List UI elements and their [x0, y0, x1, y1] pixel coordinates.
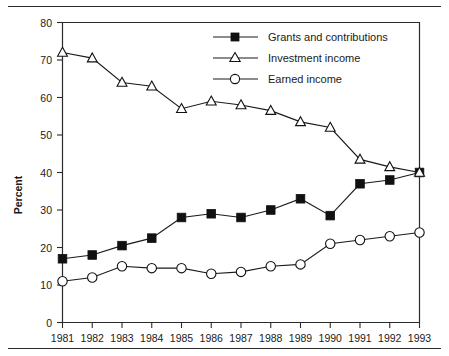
x-tick-label: 1993 — [408, 332, 432, 344]
open-circle-marker-icon — [326, 239, 335, 248]
filled-square-marker-icon — [207, 209, 216, 218]
filled-square-marker-icon — [58, 254, 67, 263]
legend-label: Investment income — [268, 52, 360, 64]
open-circle-marker-icon — [236, 267, 245, 276]
filled-square-marker-icon — [326, 211, 335, 220]
filled-square-marker-icon — [177, 213, 186, 222]
open-circle-marker-icon — [415, 228, 424, 237]
open-circle-marker-icon — [88, 273, 97, 282]
series-earned-income — [58, 228, 424, 286]
plot-frame — [63, 23, 420, 323]
x-tick-label: 1986 — [200, 332, 224, 344]
x-tick-label: 1981 — [51, 332, 75, 344]
line-chart-svg: 80 70 60 50 40 30 20 10 0 Percent — [0, 0, 449, 356]
legend-label: Earned income — [268, 73, 342, 85]
open-circle-marker-icon — [177, 263, 186, 272]
x-tick-label: 1989 — [289, 332, 313, 344]
filled-square-marker-icon — [237, 213, 246, 222]
y-axis-title: Percent — [12, 175, 24, 214]
series-grants-and-contributions — [58, 168, 424, 263]
y-tick-label: 20 — [40, 242, 52, 254]
x-tick-label: 1983 — [110, 332, 134, 344]
filled-square-marker-icon — [296, 194, 305, 203]
x-tick-label: 1984 — [140, 332, 164, 344]
x-tick-label: 1988 — [259, 332, 283, 344]
open-circle-marker-icon — [58, 277, 67, 286]
open-circle-marker-icon — [230, 74, 239, 83]
open-circle-marker-icon — [117, 262, 126, 271]
filled-square-marker-icon — [385, 176, 394, 185]
filled-square-marker-icon — [88, 251, 97, 260]
series-layer — [58, 47, 425, 286]
filled-square-marker-icon — [118, 241, 127, 250]
y-tick-label: 80 — [40, 17, 52, 29]
y-tick-label: 70 — [40, 54, 52, 66]
open-triangle-marker-icon — [230, 53, 240, 62]
y-tick-label: 30 — [40, 204, 52, 216]
open-circle-marker-icon — [385, 232, 394, 241]
series-investment-income — [58, 47, 425, 176]
x-axis-ticks — [63, 323, 420, 329]
chart-legend: Grants and contributions Investment inco… — [213, 31, 388, 85]
x-axis-tick-labels: 1981 1982 1983 1984 1985 1986 1987 1988 … — [51, 332, 432, 344]
filled-square-marker-icon — [147, 234, 156, 243]
open-circle-marker-icon — [147, 263, 156, 272]
open-triangle-marker-icon — [58, 47, 68, 56]
series-line — [63, 53, 420, 173]
y-tick-label: 40 — [40, 167, 52, 179]
x-tick-label: 1982 — [81, 332, 105, 344]
legend-item-earned: Earned income — [213, 73, 342, 85]
legend-label: Grants and contributions — [268, 31, 388, 43]
open-triangle-marker-icon — [117, 77, 127, 86]
filled-square-marker-icon — [356, 179, 365, 188]
open-circle-marker-icon — [296, 260, 305, 269]
x-tick-label: 1987 — [229, 332, 253, 344]
open-circle-marker-icon — [207, 269, 216, 278]
chart-figure: 80 70 60 50 40 30 20 10 0 Percent — [0, 0, 449, 356]
open-triangle-marker-icon — [206, 96, 216, 105]
x-tick-label: 1991 — [348, 332, 372, 344]
filled-square-marker-icon — [231, 33, 239, 41]
y-tick-label: 0 — [46, 317, 52, 329]
filled-square-marker-icon — [266, 206, 275, 215]
x-tick-label: 1990 — [319, 332, 343, 344]
legend-item-investment: Investment income — [213, 52, 360, 64]
legend-item-grants: Grants and contributions — [213, 31, 388, 43]
open-circle-marker-icon — [355, 235, 364, 244]
y-tick-label: 50 — [40, 129, 52, 141]
y-axis-tick-labels: 80 70 60 50 40 30 20 10 0 — [40, 17, 52, 329]
open-circle-marker-icon — [266, 262, 275, 271]
x-tick-label: 1992 — [378, 332, 402, 344]
y-tick-label: 10 — [40, 279, 52, 291]
x-tick-label: 1985 — [170, 332, 194, 344]
y-tick-label: 60 — [40, 92, 52, 104]
